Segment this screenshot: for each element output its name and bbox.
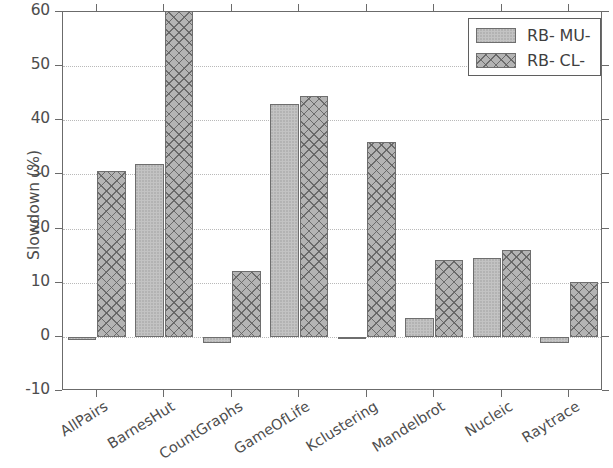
y-tick-mark: [55, 119, 62, 120]
y-tick-label: 10: [0, 272, 50, 290]
y-tick-label: 20: [0, 218, 50, 236]
bar-nucleic-rb-mu: [473, 258, 502, 337]
bar-gameoflife-rb-cl: [300, 96, 329, 337]
y-tick-label: 30: [0, 163, 50, 181]
x-tick-mark-top: [163, 4, 164, 11]
x-tick-mark: [96, 390, 97, 397]
bar-allpairs-rb-mu: [68, 337, 97, 340]
y-tick-mark-right: [602, 390, 609, 391]
legend-swatch-rb-mu-icon: [476, 28, 516, 43]
gridline: [63, 337, 601, 338]
x-tick-mark-top: [298, 4, 299, 11]
legend-item-rb-mu: RB- MU-: [476, 24, 591, 46]
x-tick-mark: [231, 390, 232, 397]
y-tick-mark: [55, 173, 62, 174]
x-tick-mark: [501, 390, 502, 397]
y-tick-mark: [55, 65, 62, 66]
x-tick-mark-top: [501, 4, 502, 11]
bar-raytrace-rb-mu: [540, 337, 569, 343]
bar-chart-figure: Slowdown (%) -100102030405060 AllPairsBa…: [0, 0, 613, 468]
y-tick-mark: [55, 282, 62, 283]
legend-label-rb-cl: RB- CL-: [527, 51, 585, 70]
x-tick-mark-top: [231, 4, 232, 11]
y-tick-mark: [55, 390, 62, 391]
y-tick-mark: [55, 11, 62, 12]
y-tick-mark-right: [602, 282, 609, 283]
y-tick-label: 40: [0, 109, 50, 127]
y-tick-label: 0: [0, 326, 50, 344]
gridline: [63, 120, 601, 121]
y-tick-mark-right: [602, 65, 609, 66]
x-tick-mark: [568, 390, 569, 397]
y-tick-label: -10: [0, 380, 50, 398]
bar-countgraphs-rb-cl: [232, 271, 261, 337]
y-tick-mark: [55, 228, 62, 229]
chart-legend: RB- MU- RB- CL-: [468, 18, 601, 76]
x-tick-mark-top: [568, 4, 569, 11]
y-tick-mark-right: [602, 228, 609, 229]
bar-kclustering-rb-cl: [367, 142, 396, 336]
y-tick-label: 60: [0, 1, 50, 19]
bar-barneshut-rb-cl: [165, 11, 194, 337]
legend-swatch-rb-cl-icon: [476, 53, 516, 68]
bar-gameoflife-rb-mu: [270, 104, 299, 337]
bar-countgraphs-rb-mu: [203, 337, 232, 343]
bar-allpairs-rb-cl: [97, 171, 126, 337]
y-tick-mark: [55, 336, 62, 337]
x-tick-mark-top: [366, 4, 367, 11]
legend-item-rb-cl: RB- CL-: [476, 49, 585, 71]
y-tick-mark-right: [602, 173, 609, 174]
y-tick-mark-right: [602, 11, 609, 12]
bar-raytrace-rb-cl: [570, 282, 599, 337]
y-tick-label: 50: [0, 55, 50, 73]
bar-mandelbrot-rb-cl: [435, 260, 464, 337]
y-tick-mark-right: [602, 119, 609, 120]
x-tick-mark: [298, 390, 299, 397]
bar-nucleic-rb-cl: [502, 250, 531, 337]
x-tick-mark-top: [433, 4, 434, 11]
x-tick-mark-top: [96, 4, 97, 11]
x-tick-mark: [433, 390, 434, 397]
x-tick-mark: [366, 390, 367, 397]
y-tick-mark-right: [602, 336, 609, 337]
bar-barneshut-rb-mu: [135, 164, 164, 337]
bar-mandelbrot-rb-mu: [405, 318, 434, 336]
x-tick-mark: [163, 390, 164, 397]
legend-label-rb-mu: RB- MU-: [527, 26, 591, 45]
bar-kclustering-rb-mu: [338, 337, 367, 339]
